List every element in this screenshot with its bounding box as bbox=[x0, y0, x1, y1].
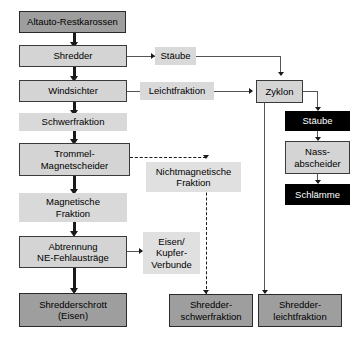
node-abtrennung-ne-fehlaustraege: Abtrennung NE-Fehlausträge bbox=[19, 236, 127, 268]
edge-leichtfraktion-to-zyklon bbox=[213, 91, 252, 92]
edge-zyklon-to-leichtfraktion-out bbox=[264, 103, 265, 293]
edge-windsichter-to-leichtfraktion bbox=[127, 91, 141, 92]
node-shredderleichtfraktion: Shredder- leichtfraktion bbox=[258, 294, 342, 327]
node-staube-box: Stäube bbox=[285, 111, 350, 131]
node-windsichter: Windsichter bbox=[19, 80, 127, 102]
edge-zyklon-to-staube-h bbox=[303, 91, 318, 92]
edge-trommel-to-nichtmagnetische-dashed bbox=[130, 157, 206, 158]
node-shredder: Shredder bbox=[19, 45, 127, 67]
arrowhead-nichtmagnetische-in bbox=[203, 155, 209, 159]
node-trommel-magnetscheider: Trommel- Magnetscheider bbox=[19, 143, 130, 176]
node-schwerfraktion: Schwerfraktion bbox=[19, 113, 127, 131]
node-staube-tag: Stäube bbox=[155, 47, 196, 65]
node-leichtfraktion: Leichtfraktion bbox=[140, 82, 214, 100]
node-schlaemme: Schlämme bbox=[285, 184, 350, 205]
node-magnetische-fraktion: Magnetische Fraktion bbox=[19, 193, 127, 222]
node-eisen-kupfer-verbunde: Eisen/ Kupfer- Verbunde bbox=[143, 232, 200, 274]
node-nassabscheider: Nass- abscheider bbox=[285, 141, 350, 174]
node-altauto-restkarossen: Altauto-Restkarossen bbox=[19, 11, 126, 33]
arrowhead-zyklon-in-left bbox=[249, 88, 253, 94]
arrowhead-zyklon-in-top bbox=[278, 72, 284, 76]
process-flow-diagram: Altauto-Restkarossen Shredder Windsichte… bbox=[0, 0, 356, 344]
edge-staube-to-zyklon-h bbox=[196, 56, 281, 57]
node-zyklon: Zyklon bbox=[256, 80, 303, 103]
node-shredderschrott: Shredderschrott (Eisen) bbox=[19, 293, 127, 327]
node-nichtmagnetische-fraktion: Nichtmagnetische Fraktion bbox=[146, 162, 241, 192]
node-shredderschwerfraktion: Shredder- schwerfraktion bbox=[169, 294, 253, 327]
